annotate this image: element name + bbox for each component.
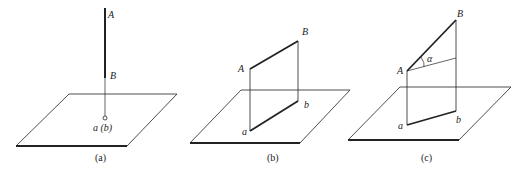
panel-a: A B a (b) (a) <box>16 8 177 164</box>
label-b-b: b <box>304 99 309 110</box>
plane-b <box>190 90 350 143</box>
label-B-c: B <box>457 8 463 19</box>
label-alpha-c: α <box>427 53 433 64</box>
panel-c: A B α a b (c) <box>348 8 511 164</box>
segment-ab-c <box>407 111 456 125</box>
caption-b: (b) <box>267 152 279 164</box>
label-b-c: b <box>456 114 461 125</box>
projection-point-ab <box>103 116 107 120</box>
angle-arc-alpha <box>421 57 424 67</box>
label-A-a: A <box>107 9 115 20</box>
projection-diagram: A B a (b) (a) A B a b (b) A B α a b (c) <box>0 0 517 173</box>
label-ab-a: a (b) <box>93 122 113 134</box>
plane-c <box>348 87 511 140</box>
label-a-c: a <box>398 120 403 131</box>
caption-a: (a) <box>95 152 106 164</box>
label-A-c: A <box>396 65 404 76</box>
label-a-b: a <box>242 126 247 137</box>
panel-b: A B a b (b) <box>190 26 350 164</box>
label-B-a: B <box>110 70 116 81</box>
label-B-b: B <box>302 26 308 37</box>
segment-ab-b <box>250 101 298 131</box>
label-A-b: A <box>237 63 245 74</box>
caption-c: (c) <box>421 152 432 164</box>
plane-a <box>16 94 177 146</box>
segment-AB-b <box>250 41 298 69</box>
